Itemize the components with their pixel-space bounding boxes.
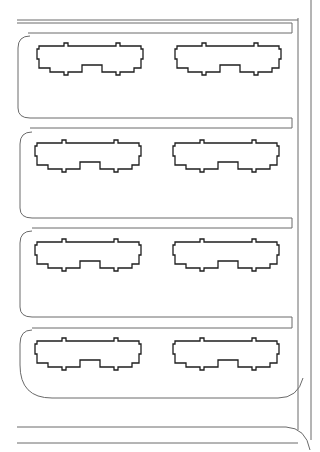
building-4a bbox=[35, 338, 141, 370]
building-2b bbox=[173, 140, 279, 172]
site-plan-drawing bbox=[0, 0, 320, 452]
building-1a bbox=[37, 43, 143, 75]
building-3a bbox=[35, 239, 141, 271]
buildings bbox=[35, 43, 281, 370]
bottom-road bbox=[17, 427, 310, 450]
top-road bbox=[17, 20, 298, 33]
building-4b bbox=[173, 338, 279, 370]
building-3b bbox=[173, 239, 279, 271]
building-1b bbox=[175, 43, 281, 75]
building-2a bbox=[35, 140, 141, 172]
